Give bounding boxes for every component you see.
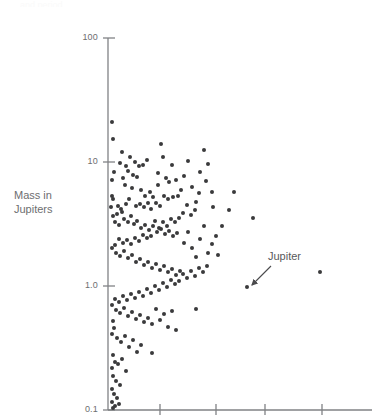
- data-point: [171, 234, 175, 238]
- data-point: [202, 148, 206, 152]
- data-point: [115, 336, 119, 340]
- data-point: [170, 163, 174, 167]
- data-point: [110, 400, 114, 404]
- data-point: [227, 208, 231, 212]
- data-point: [129, 242, 133, 246]
- data-point: [194, 307, 198, 311]
- axes-group: [103, 38, 372, 415]
- data-point: [151, 195, 155, 199]
- data-point: [194, 255, 198, 259]
- y-axis-label: Mass in Jupiters: [14, 188, 94, 216]
- data-point: [177, 216, 181, 220]
- data-point: [318, 270, 322, 274]
- data-point: [166, 197, 170, 201]
- data-point: [169, 217, 173, 221]
- data-point: [121, 176, 125, 180]
- y-tick-label-100: 100: [48, 32, 98, 42]
- y-tick-label-0.1: 0.1: [48, 404, 98, 414]
- data-point: [121, 294, 125, 298]
- data-point: [185, 276, 189, 280]
- data-point: [194, 200, 198, 204]
- data-point: [162, 194, 166, 198]
- data-point: [216, 253, 220, 257]
- data-point: [120, 150, 124, 154]
- data-point: [135, 350, 139, 354]
- data-point: [165, 224, 169, 228]
- data-point: [112, 392, 116, 396]
- data-point: [170, 309, 174, 313]
- annotation-arrow-group: [252, 266, 271, 285]
- data-point: [181, 211, 185, 215]
- data-point: [186, 230, 190, 234]
- data-point: [174, 273, 178, 277]
- data-point: [141, 294, 145, 298]
- data-point: [177, 279, 181, 283]
- y-tick-label-10: 10: [48, 156, 98, 166]
- data-point: [157, 226, 161, 230]
- data-point: [116, 362, 120, 366]
- data-point: [116, 204, 120, 208]
- data-point: [146, 260, 150, 264]
- data-point: [214, 234, 218, 238]
- data-point: [122, 217, 126, 221]
- data-point: [189, 213, 193, 217]
- data-point: [132, 222, 136, 226]
- data-point: [155, 230, 159, 234]
- data-point: [197, 266, 201, 270]
- data-point: [123, 183, 127, 187]
- data-point: [150, 351, 154, 355]
- data-point: [146, 316, 150, 320]
- data-point: [137, 290, 141, 294]
- data-point: [232, 190, 236, 194]
- data-point: [182, 174, 186, 178]
- data-point: [127, 345, 131, 349]
- data-point: [118, 311, 122, 315]
- data-point: [143, 223, 147, 227]
- data-point: [133, 160, 137, 164]
- data-point: [126, 256, 130, 260]
- data-points-group: [109, 120, 322, 410]
- data-point: [245, 285, 249, 289]
- data-point: [147, 228, 151, 232]
- data-point: [113, 220, 117, 224]
- data-point: [173, 220, 177, 224]
- data-point: [138, 257, 142, 261]
- data-point: [130, 310, 134, 314]
- data-point: [111, 353, 115, 357]
- data-point: [166, 270, 170, 274]
- data-point: [129, 292, 133, 296]
- data-point: [171, 195, 175, 199]
- data-point: [162, 312, 166, 316]
- data-point: [178, 269, 182, 273]
- data-point: [193, 208, 197, 212]
- data-point: [114, 251, 118, 255]
- data-point: [190, 185, 194, 189]
- data-point: [117, 223, 121, 227]
- data-point: [161, 155, 165, 159]
- data-point: [198, 170, 202, 174]
- data-point: [197, 191, 201, 195]
- data-point: [145, 236, 149, 240]
- data-point: [134, 204, 138, 208]
- data-point: [127, 197, 131, 201]
- data-point: [118, 161, 122, 165]
- data-point: [129, 214, 133, 218]
- data-point: [134, 317, 138, 321]
- data-point: [117, 402, 121, 406]
- data-point: [122, 249, 126, 253]
- data-point: [121, 241, 125, 245]
- data-point: [115, 396, 119, 400]
- data-point: [130, 186, 134, 190]
- data-point: [165, 285, 169, 289]
- data-point: [211, 205, 215, 209]
- data-point: [153, 284, 157, 288]
- data-point: [126, 314, 130, 318]
- data-point: [114, 379, 118, 383]
- y-tick-label-1.0: 1.0: [48, 280, 98, 290]
- data-point: [142, 205, 146, 209]
- data-point: [166, 325, 170, 329]
- data-point: [125, 238, 129, 242]
- data-point: [204, 179, 208, 183]
- data-point: [161, 220, 165, 224]
- data-point: [169, 278, 173, 282]
